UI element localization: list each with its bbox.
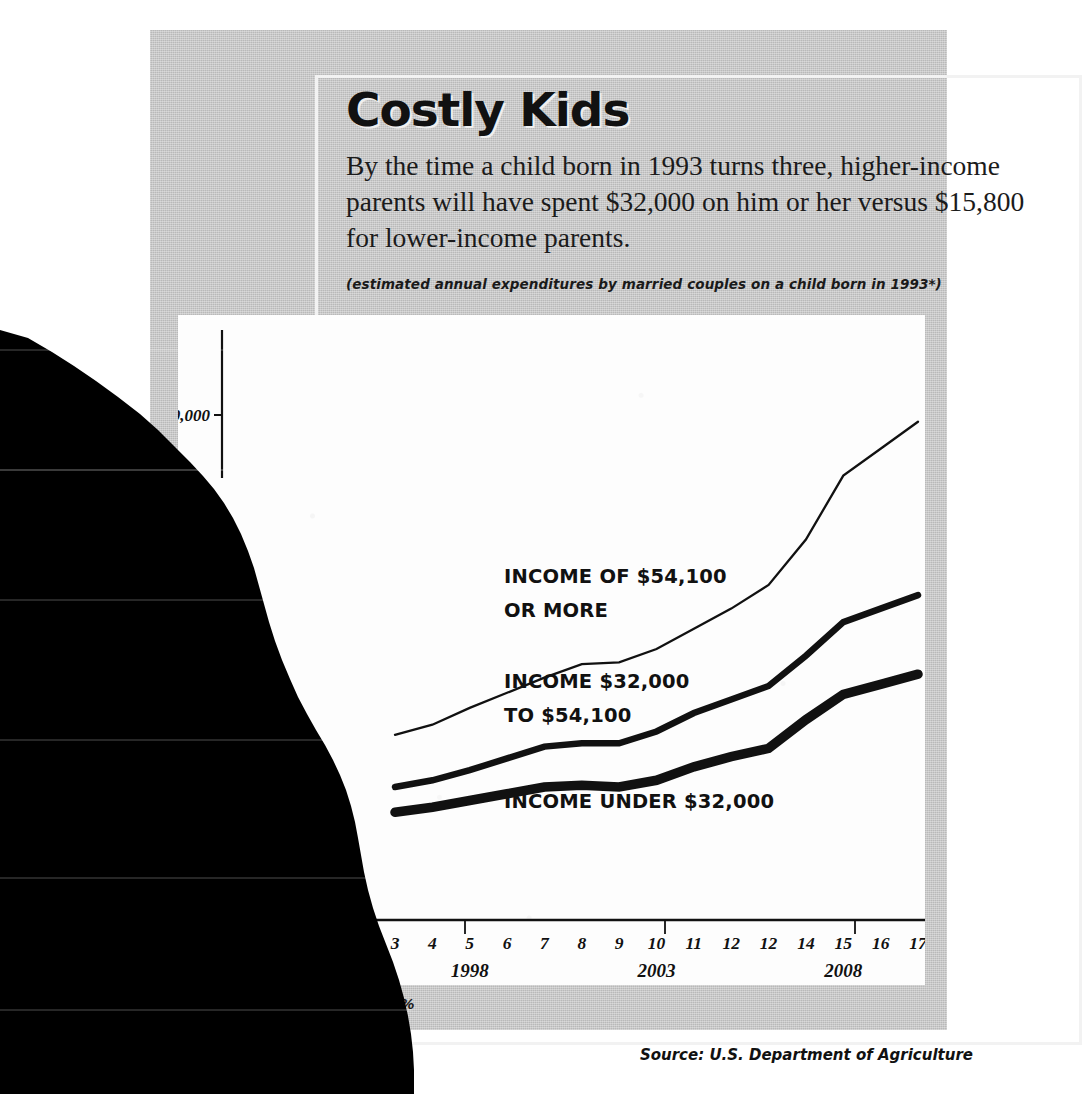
- x-axis-age-label: 4: [427, 933, 437, 953]
- x-axis-age-label: 15: [835, 933, 853, 953]
- x-axis-year-label: 1998: [451, 960, 490, 981]
- x-axis-age-label: 12: [722, 933, 740, 953]
- x-axis-age-label: 8: [577, 933, 586, 953]
- series-label-middle-income-line1: INCOME $32,000: [504, 670, 690, 693]
- source-credit: Source: U.S. Department of Agriculture: [640, 1046, 973, 1064]
- x-axis-year-label: 2003: [637, 960, 676, 981]
- x-axis-age-label: 12: [760, 933, 778, 953]
- x-axis-age-label: 6: [503, 933, 512, 953]
- y-tick-label: $30,000: [178, 406, 211, 425]
- series-label-low-income: INCOME UNDER $32,000: [504, 790, 774, 813]
- headline-block: Costly Kids By the time a child born in …: [346, 85, 1046, 292]
- deck-text: By the time a child born in 1993 turns t…: [346, 148, 1046, 255]
- x-axis-age-label: 17: [909, 933, 925, 953]
- page-title: Costly Kids: [346, 85, 1046, 134]
- line-chart: $30,000 34567891011121214151617 19982003…: [178, 315, 925, 985]
- x-axis-year-ticks: [465, 920, 855, 934]
- x-axis-tick-labels: 34567891011121214151617: [390, 933, 925, 953]
- footnote-text: n rate of 6%: [318, 996, 415, 1012]
- subdeck-text: (estimated annual expenditures by marrie…: [346, 276, 1046, 292]
- x-axis-age-label: 7: [540, 933, 550, 953]
- series-label-middle-income-line2: TO $54,100: [504, 704, 631, 727]
- x-axis-age-label: 14: [797, 933, 815, 953]
- series-label-high-income-line1: INCOME OF $54,100: [504, 565, 727, 588]
- series-label-high-income-line2: OR MORE: [504, 599, 608, 622]
- chart-plot-area: $30,000 34567891011121214151617 19982003…: [178, 315, 925, 985]
- x-axis-age-label: 3: [390, 933, 400, 953]
- x-axis-age-label: 16: [872, 933, 890, 953]
- x-axis-age-label: 5: [465, 933, 474, 953]
- x-axis-age-label: 11: [686, 933, 703, 953]
- x-axis-year-labels: 199820032008: [451, 960, 863, 981]
- x-axis-year-label: 2008: [823, 960, 863, 981]
- x-axis-age-label: 10: [648, 933, 666, 953]
- x-axis-age-label: 9: [615, 933, 624, 953]
